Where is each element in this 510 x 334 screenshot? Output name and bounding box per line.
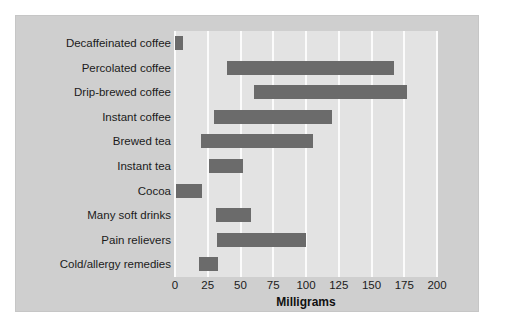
category-axis-labels: Decaffeinated coffeePercolated coffeeDri… bbox=[16, 31, 171, 277]
bar bbox=[227, 61, 393, 75]
x-tick-label: 0 bbox=[172, 279, 178, 291]
category-label: Brewed tea bbox=[19, 129, 171, 154]
category-label-row: Pain relievers bbox=[16, 228, 171, 253]
category-label: Cocoa bbox=[19, 179, 171, 204]
bar bbox=[201, 134, 312, 148]
bar bbox=[175, 36, 183, 50]
x-tick-label: 200 bbox=[427, 279, 446, 291]
x-tick-label: 150 bbox=[362, 279, 381, 291]
category-label-row: Many soft drinks bbox=[16, 203, 171, 228]
category-label-row: Instant coffee bbox=[16, 105, 171, 130]
category-label: Many soft drinks bbox=[19, 203, 171, 228]
category-label-row: Cold/allergy remedies bbox=[16, 252, 171, 277]
bar-row bbox=[175, 31, 437, 56]
category-label-row: Drip-brewed coffee bbox=[16, 80, 171, 105]
x-tick-label: 25 bbox=[201, 279, 214, 291]
bar bbox=[254, 85, 407, 99]
plot-area bbox=[175, 31, 437, 277]
bar-row bbox=[175, 154, 437, 179]
category-label: Cold/allergy remedies bbox=[19, 252, 171, 277]
chart-figure: Decaffeinated coffeePercolated coffeeDri… bbox=[0, 0, 510, 334]
category-label-row: Instant tea bbox=[16, 154, 171, 179]
category-label: Drip-brewed coffee bbox=[19, 80, 171, 105]
bar-row bbox=[175, 179, 437, 204]
bar-row bbox=[175, 228, 437, 253]
bar bbox=[209, 159, 243, 173]
bar bbox=[217, 233, 306, 247]
category-label-row: Cocoa bbox=[16, 179, 171, 204]
x-tick-label: 175 bbox=[395, 279, 414, 291]
x-axis-title: Milligrams bbox=[175, 295, 437, 309]
bar-row bbox=[175, 252, 437, 277]
x-tick-label: 50 bbox=[234, 279, 247, 291]
bar bbox=[214, 110, 332, 124]
bar-row bbox=[175, 80, 437, 105]
bar-row bbox=[175, 129, 437, 154]
bar-rows bbox=[175, 31, 437, 277]
x-axis-tick-labels: 0255075100125150175200 bbox=[175, 279, 437, 295]
bar-row bbox=[175, 56, 437, 81]
x-tick-label: 125 bbox=[329, 279, 348, 291]
category-label-row: Decaffeinated coffee bbox=[16, 31, 171, 56]
bar bbox=[199, 257, 219, 271]
bar-row bbox=[175, 203, 437, 228]
category-label: Percolated coffee bbox=[19, 56, 171, 81]
bar-row bbox=[175, 105, 437, 130]
chart-panel: Decaffeinated coffeePercolated coffeeDri… bbox=[16, 16, 478, 311]
bar bbox=[176, 184, 202, 198]
category-label: Pain relievers bbox=[19, 228, 171, 253]
category-label: Instant tea bbox=[19, 154, 171, 179]
category-label: Instant coffee bbox=[19, 105, 171, 130]
category-label-row: Brewed tea bbox=[16, 129, 171, 154]
category-label-row: Percolated coffee bbox=[16, 56, 171, 81]
x-tick-label: 75 bbox=[267, 279, 280, 291]
bar bbox=[216, 208, 251, 222]
category-label: Decaffeinated coffee bbox=[19, 31, 171, 56]
x-tick-label: 100 bbox=[296, 279, 315, 291]
